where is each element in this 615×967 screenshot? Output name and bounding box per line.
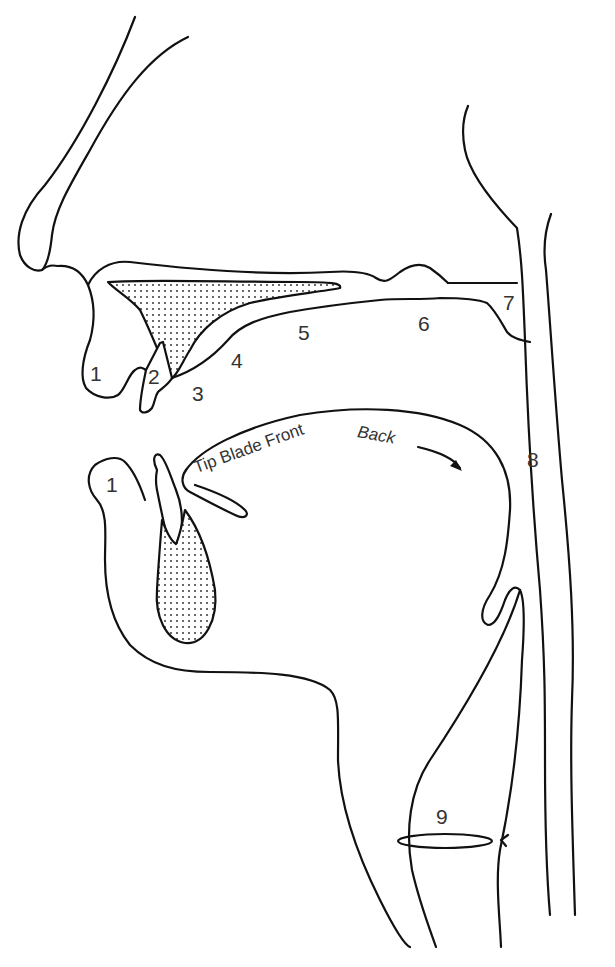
lower-lip [89,458,410,947]
label-hard-palate: 5 [298,322,310,343]
label-soft-palate: 6 [418,313,430,334]
mandible-bone [157,510,216,643]
epiglottis-line [409,590,520,947]
label-glottis: 9 [436,806,448,827]
label-alveolar-ridge: 3 [192,383,204,404]
label-upper-lip: 1 [90,363,102,384]
pharynx-wall-front [463,106,550,915]
tongue-surface [186,409,524,947]
vocal-folds [398,834,492,848]
pharynx-wall-back [545,214,575,915]
label-post-alveolar: 4 [231,350,243,371]
tongue-tip-under [183,470,247,517]
vocal-tract-diagram [0,0,615,967]
nose-inner-line [42,37,188,270]
label-upper-teeth: 2 [148,366,160,387]
label-lower-lip: 1 [106,474,118,495]
nose-outline [18,17,135,270]
label-uvula: 7 [503,292,515,313]
label-pharynx: 8 [527,449,539,470]
arrow-head-icon [450,460,462,471]
